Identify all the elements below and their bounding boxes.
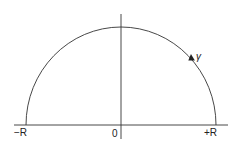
direction-arrow-icon — [187, 54, 194, 62]
label-plus-r: +R — [204, 128, 217, 138]
label-minus-r: −R — [14, 128, 27, 138]
contour-diagram — [0, 0, 238, 143]
label-gamma: γ — [196, 52, 201, 62]
label-origin: 0 — [112, 129, 118, 139]
